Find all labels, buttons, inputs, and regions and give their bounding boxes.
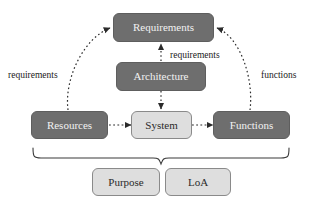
edge-functions-to-requirements <box>217 28 251 110</box>
node-resources[interactable]: Resources <box>31 111 108 139</box>
node-architecture-label: Architecture <box>134 71 189 82</box>
node-functions[interactable]: Functions <box>213 111 290 139</box>
node-resources-label: Resources <box>47 120 92 131</box>
diagram-canvas: Requirements Architecture Resources Syst… <box>0 0 313 203</box>
edge-resources-to-requirements <box>67 28 110 110</box>
node-architecture[interactable]: Architecture <box>116 62 206 91</box>
node-functions-label: Functions <box>230 120 273 131</box>
node-requirements-label: Requirements <box>133 22 194 33</box>
edge-label-right-functions: functions <box>261 71 296 81</box>
edge-label-center-requirements: requirements <box>170 51 220 61</box>
node-system-label: System <box>145 120 177 131</box>
node-loa[interactable]: LoA <box>165 168 231 196</box>
node-purpose[interactable]: Purpose <box>92 168 160 196</box>
edge-label-left-requirements: requirements <box>8 71 58 81</box>
node-system[interactable]: System <box>131 111 192 139</box>
bottom-brace <box>33 148 289 164</box>
node-loa-label: LoA <box>188 177 208 188</box>
node-purpose-label: Purpose <box>108 177 143 188</box>
node-requirements[interactable]: Requirements <box>113 13 214 42</box>
